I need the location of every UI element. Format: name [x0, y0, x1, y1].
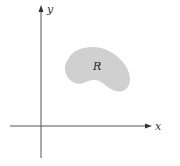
- y-axis-arrow-icon: [39, 5, 44, 12]
- coordinate-diagram: y x R: [0, 0, 180, 166]
- region-r-label: R: [92, 60, 101, 73]
- x-axis-arrow-icon: [145, 124, 152, 129]
- x-axis-label: x: [155, 120, 162, 133]
- y-axis-label: y: [46, 3, 54, 16]
